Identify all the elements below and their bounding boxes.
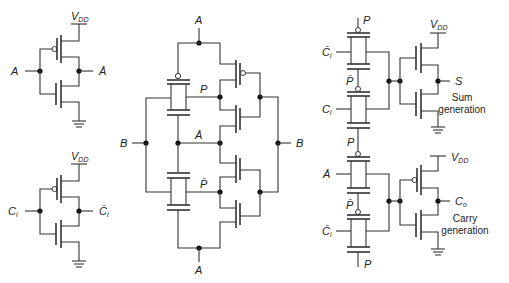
- label-top-a: A: [194, 14, 202, 26]
- label-right-b: B: [296, 137, 303, 149]
- label-carry-p-bottom: P: [364, 258, 372, 270]
- label-left-b: B: [120, 137, 127, 149]
- label-output-ci-bar: C̄i: [99, 205, 109, 218]
- label-carry-vdd: VDD: [451, 151, 468, 164]
- caption-sum: Sum: [452, 92, 473, 103]
- xor-block: A P B Ā: [120, 14, 303, 276]
- label-vdd: VDD: [71, 10, 88, 23]
- label-a-bar: Ā: [194, 129, 202, 141]
- sum-generation-block: P C̄i P̄ Ci P: [322, 14, 486, 148]
- label-vdd: VDD: [71, 150, 88, 163]
- label-sum-output-s: S: [455, 75, 463, 87]
- inverter-ci: Ci C̄i VDD: [8, 150, 109, 267]
- label-p-bar: P̄: [200, 178, 208, 190]
- label-sum-p-bar: P̄: [346, 75, 354, 87]
- label-input-a: A: [10, 65, 18, 77]
- label-sum-ci: Ci: [322, 103, 332, 116]
- label-carry-p-bar: P̄: [346, 199, 354, 211]
- pmos-bubble-icon: [356, 28, 361, 33]
- label-carry-a-bar: Ā: [322, 168, 330, 180]
- full-adder-schematic: A Ā VDD Ci C̄i VDD A: [0, 0, 509, 283]
- label-sum-ci-bar: C̄i: [322, 46, 332, 59]
- pmos-bubble-icon: [175, 73, 180, 78]
- pmos-bubble-icon: [356, 87, 361, 92]
- label-carry-ci-bar: C̄i: [322, 225, 332, 238]
- label-bottom-a: A: [194, 264, 202, 276]
- caption-generation: generation: [441, 225, 488, 236]
- label-p: P: [200, 83, 208, 95]
- label-input-ci: Ci: [8, 205, 18, 218]
- label-output-a-bar: Ā: [98, 65, 106, 77]
- label-sum-vdd: VDD: [430, 18, 447, 31]
- pmos-bubble-icon: [356, 152, 361, 157]
- pmos-bubble-icon: [356, 210, 361, 215]
- caption-generation: generation: [438, 104, 485, 115]
- carry-generation-block: Ā P̄ C̄i P VDD: [322, 145, 489, 270]
- pmos-bubble-icon: [241, 71, 246, 76]
- label-sum-p-bottom: P: [347, 136, 355, 148]
- caption-carry: Carry: [453, 213, 477, 224]
- inverter-a: A Ā VDD: [10, 10, 106, 127]
- label-sum-p-top: P: [363, 14, 371, 26]
- label-carry-output-co: Co: [455, 195, 467, 208]
